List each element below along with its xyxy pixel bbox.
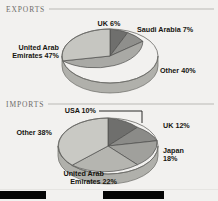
section-title-exports: EXPORTS <box>6 5 49 14</box>
exports-label-uae-line2: Emirates 47% <box>2 52 59 60</box>
exports-label-uk: UK 6% <box>84 20 134 28</box>
imports-label-uk: UK 12% <box>163 122 190 130</box>
exports-label-other: Other 40% <box>160 67 196 75</box>
exports-label-saudi-arabia: Saudi Arabia 7% <box>137 26 193 34</box>
usa-leader-line <box>98 109 168 131</box>
section-rule-exports <box>49 8 214 10</box>
section-header-exports: EXPORTS <box>6 4 214 14</box>
imports-label-uae-line2: Emirates 22% <box>20 178 117 186</box>
imports-label-usa: USA 10% <box>38 107 96 115</box>
exports-slice-uae <box>62 29 110 61</box>
exports-pie-svg <box>60 29 160 91</box>
bottom-bar-left <box>0 191 46 199</box>
bottom-bar-right <box>103 191 164 199</box>
figure-page: EXPORTS UK 6% Saudi Arabia 7% United Ara… <box>0 0 218 201</box>
imports-label-japan-line2: 18% <box>163 155 177 163</box>
bottom-hairline <box>0 189 218 190</box>
imports-label-other: Other 38% <box>0 129 52 137</box>
exports-pie-chart <box>60 29 160 91</box>
section-rule-imports <box>48 103 214 105</box>
